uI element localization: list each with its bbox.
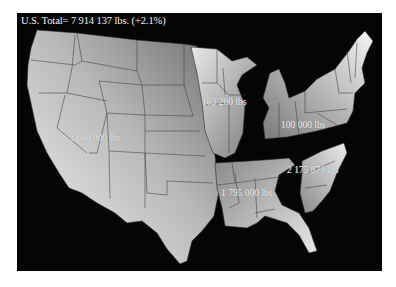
map-panel: U.S. Total= 7 914 137 lbs. (+2.1%) 3 680… <box>17 13 382 271</box>
region-west <box>27 30 219 264</box>
region-label-south-central: 1 795 000 lbs <box>221 188 272 198</box>
region-label-southeast: 2 175 871 lbs <box>287 165 338 175</box>
region-label-northeast: 100 000 lbs <box>281 120 325 130</box>
region-label-west: 3 680 000 lbs <box>69 133 120 143</box>
region-southeast <box>300 143 347 213</box>
us-total-title: U.S. Total= 7 914 137 lbs. (+2.1%) <box>21 15 166 26</box>
region-label-upper-midwest: 163 260 lbs <box>202 97 246 107</box>
